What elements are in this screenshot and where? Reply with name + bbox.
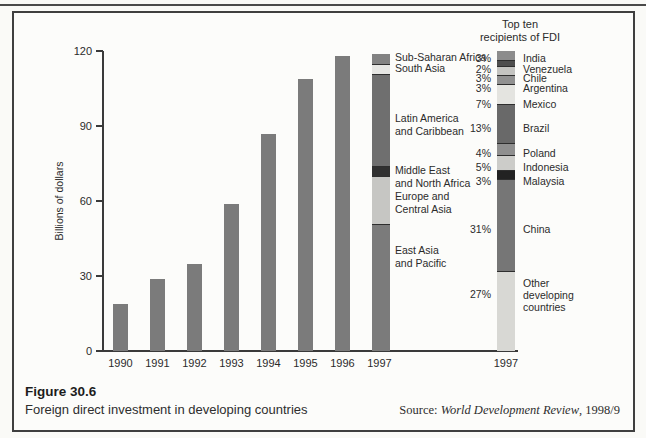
x-axis-label-1996: 1996 <box>324 357 361 369</box>
region-segment-sub-saharan-africa <box>372 54 390 64</box>
pct-label-china: 31% <box>453 223 491 235</box>
source-note: Source: World Development Review, 1998/9 <box>399 403 620 418</box>
region-label-east-asia-and-pacific: East Asiaand Pacific <box>395 244 446 269</box>
y-tick-label-120: 120 <box>62 45 92 57</box>
country-label-poland: Poland <box>523 147 556 159</box>
country-label-other-developing-countries: Otherdevelopingcountries <box>523 277 574 313</box>
x-axis-label-top-ten-1997: 1997 <box>488 357 525 369</box>
year-bar-1993 <box>224 204 239 352</box>
region-label-south-asia: South Asia <box>395 62 445 75</box>
year-bar-1992 <box>187 264 202 352</box>
top-ten-segment-malaysia <box>497 170 515 179</box>
top-ten-segment-indonesia <box>497 155 515 170</box>
page-top-rule <box>0 4 646 6</box>
top-ten-segment-mexico <box>497 84 515 105</box>
source-title: World Development Review <box>441 403 579 417</box>
x-axis-label-1991: 1991 <box>139 357 176 369</box>
x-axis-label-1992: 1992 <box>176 357 213 369</box>
y-tick-label-60: 60 <box>62 195 92 207</box>
stacked-bar-top-ten <box>497 51 515 351</box>
top-ten-segment-india <box>497 51 515 60</box>
year-bar-1996 <box>335 56 350 351</box>
pct-label-other-developing-countries: 27% <box>453 288 491 300</box>
stacked-bar-1997-regions <box>372 54 390 352</box>
pct-label-argentina: 3% <box>453 82 491 94</box>
year-bar-1995 <box>298 79 313 352</box>
top-ten-title-line1: Top ten <box>455 18 585 31</box>
top-ten-panel-title: Top ten recipients of FDI <box>455 18 585 44</box>
top-ten-segment-poland <box>497 143 515 155</box>
x-axis-label-1997: 1997 <box>361 357 398 369</box>
source-suffix: , 1998/9 <box>579 403 620 417</box>
region-segment-europe-and-central-asia <box>372 176 390 224</box>
top-ten-segment-china <box>497 179 515 271</box>
country-label-argentina: Argentina <box>523 82 568 94</box>
country-label-brazil: Brazil <box>523 122 549 134</box>
year-bar-1991 <box>150 279 165 352</box>
y-tick-label-30: 30 <box>62 270 92 282</box>
x-axis-label-1993: 1993 <box>213 357 250 369</box>
y-tick-30 <box>96 275 103 277</box>
region-segment-middle-east-and-north-africa <box>372 166 390 176</box>
y-tick-0 <box>96 350 103 352</box>
y-tick-90 <box>96 125 103 127</box>
region-segment-south-asia <box>372 64 390 74</box>
x-axis-label-1995: 1995 <box>287 357 324 369</box>
y-tick-60 <box>96 200 103 202</box>
top-ten-segment-other-developing-countries <box>497 271 515 351</box>
top-ten-segment-brazil <box>497 104 515 143</box>
y-tick-120 <box>96 50 103 52</box>
pct-label-indonesia: 5% <box>453 161 491 173</box>
country-label-malaysia: Malaysia <box>523 175 564 187</box>
x-axis-label-1990: 1990 <box>102 357 139 369</box>
source-prefix: Source: <box>399 403 440 417</box>
y-tick-label-0: 0 <box>62 345 92 357</box>
pct-label-malaysia: 3% <box>453 175 491 187</box>
country-label-indonesia: Indonesia <box>523 161 569 173</box>
pct-label-brazil: 13% <box>453 122 491 134</box>
region-segment-latin-america-and-caribbean <box>372 74 390 167</box>
figure-caption: Foreign direct investment in developing … <box>25 402 308 417</box>
pct-label-mexico: 7% <box>453 98 491 110</box>
top-ten-segment-chile <box>497 66 515 75</box>
region-segment-east-asia-and-pacific <box>372 224 390 352</box>
country-label-mexico: Mexico <box>523 98 556 110</box>
year-bar-1994 <box>261 134 276 352</box>
region-label-europe-and-central-asia: Europe andCentral Asia <box>395 190 452 215</box>
top-ten-title-line2: recipients of FDI <box>455 31 585 44</box>
figure-number: Figure 30.6 <box>25 384 96 399</box>
top-ten-segment-argentina <box>497 75 515 84</box>
country-label-china: China <box>523 223 550 235</box>
pct-label-poland: 4% <box>453 147 491 159</box>
y-tick-label-90: 90 <box>62 120 92 132</box>
year-bar-1990 <box>113 304 128 352</box>
x-axis-label-1994: 1994 <box>250 357 287 369</box>
